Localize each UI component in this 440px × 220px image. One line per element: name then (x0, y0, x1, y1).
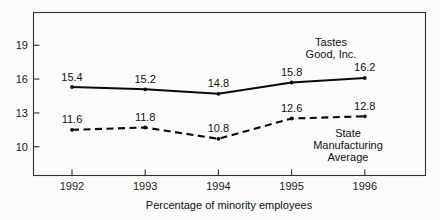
annotation-line-3: Average (328, 151, 369, 163)
data-point (143, 126, 147, 130)
data-point (363, 114, 367, 118)
x-axis-caption: Percentage of minority employees (146, 199, 313, 211)
data-label-s1-1996: 16.2 (354, 61, 375, 73)
annotation-tastes-good: Tastes Good, Inc. (306, 36, 357, 60)
y-tick-label-10: 10 (16, 141, 28, 153)
data-label-s2-1994: 10.8 (208, 122, 229, 134)
data-point (290, 117, 294, 121)
data-point (70, 128, 74, 132)
chart-container: 19 16 13 10 1992 1993 1994 1995 1996 15.… (0, 0, 440, 220)
y-tick-label-16: 16 (16, 73, 28, 85)
annotation-line-2: Manufacturing (313, 139, 383, 151)
data-point (290, 81, 294, 85)
data-label-s1-1994: 14.8 (208, 77, 229, 89)
data-label-s1-1993: 15.2 (134, 73, 155, 85)
x-tick-label-1996: 1996 (353, 180, 377, 192)
line-chart: 19 16 13 10 1992 1993 1994 1995 1996 15.… (0, 0, 440, 220)
annotation-line-2: Good, Inc. (306, 48, 357, 60)
data-point (363, 76, 367, 80)
data-label-s2-1995: 12.6 (281, 102, 302, 114)
x-tick-label-1994: 1994 (206, 180, 230, 192)
data-point (217, 137, 221, 141)
y-tick-label-13: 13 (16, 107, 28, 119)
annotation-line-1: Tastes (315, 36, 347, 48)
data-label-s1-1992: 15.4 (61, 71, 82, 83)
y-tick-label-19: 19 (16, 39, 28, 51)
x-tick-label-1995: 1995 (279, 180, 303, 192)
data-point (143, 87, 147, 91)
data-point (217, 92, 221, 96)
data-point (70, 85, 74, 89)
annotation-line-1: State (335, 127, 361, 139)
data-label-s2-1996: 12.8 (354, 100, 375, 112)
x-tick-label-1992: 1992 (60, 180, 84, 192)
annotation-state-average: State Manufacturing Average (313, 127, 383, 163)
x-axis-ticks (72, 170, 365, 176)
data-label-s2-1992: 11.6 (62, 113, 83, 125)
data-label-s2-1993: 11.8 (135, 111, 156, 123)
data-label-s1-1995: 15.8 (281, 66, 302, 78)
y-axis-ticks (34, 45, 40, 146)
x-tick-label-1993: 1993 (133, 180, 157, 192)
